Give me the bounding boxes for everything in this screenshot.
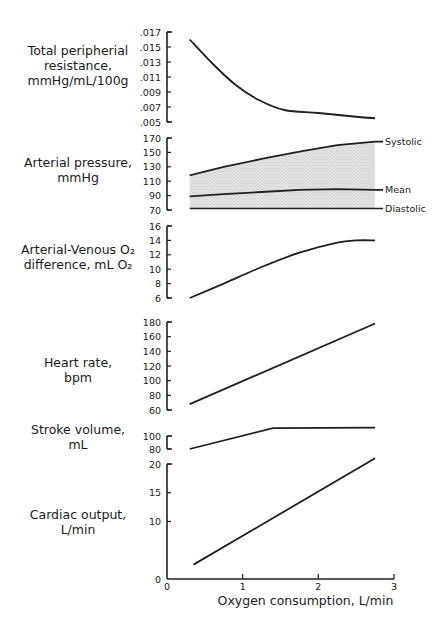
tick-label-co: 0 [155,574,161,585]
panels-layer: Total peripherialresistance,mmHg/mL/100g… [21,27,426,609]
tick-label-co: 15 [149,487,161,498]
tick-label-hr: 60 [149,405,161,416]
tick-label-hr: 80 [149,390,161,401]
tick-label-tpr: .013 [140,57,161,68]
tick-label-pressure: 150 [143,147,161,158]
x-tick-label: 1 [240,581,246,592]
tick-label-pressure: 90 [149,190,161,201]
tick-label-avo2: 14 [149,235,161,246]
x-tick-label: 2 [315,581,321,592]
series-line-avo2 [190,240,375,298]
tick-label-pressure: 130 [143,161,161,172]
tick-label-co: 10 [149,516,161,527]
panel-label-tpr: resistance, [44,58,112,73]
panel-label-pressure: Arterial pressure, [24,155,132,170]
series-label-systolic: Systolic [385,136,422,147]
panel-label-avo2: difference, mL O₂ [24,257,133,272]
physiology-figure: Total peripherialresistance,mmHg/mL/100g… [0,0,436,620]
tick-label-tpr: .017 [140,27,161,38]
pressure-shaded-area [190,142,375,209]
panel-tpr: Total peripherialresistance,mmHg/mL/100g… [27,27,375,128]
series-label-diastolic: Diastolic [385,203,426,214]
tick-label-hr: 160 [143,331,161,342]
tick-label-sv: 80 [149,444,161,455]
tick-label-tpr: .011 [140,72,161,83]
tick-label-pressure: 110 [143,176,161,187]
x-tick-label: 3 [391,581,397,592]
tick-label-tpr: .015 [140,42,161,53]
x-axis-label: Oxygen consumption, L/min [218,593,394,608]
tick-label-hr: 120 [143,361,161,372]
series-line-sv [190,428,375,449]
tick-label-co: 20 [149,459,161,470]
panel-label-hr: Heart rate, [44,355,112,370]
tick-label-hr: 140 [143,346,161,357]
tick-label-tpr: .005 [140,117,161,128]
panel-label-tpr: mmHg/mL/100g [27,73,128,88]
panel-label-hr: bpm [64,370,92,385]
tick-label-tpr: .009 [140,87,161,98]
tick-label-avo2: 12 [149,249,161,260]
tick-label-avo2: 8 [155,278,161,289]
panel-label-avo2: Arterial-Venous O₂ [21,242,135,257]
tick-label-avo2: 16 [149,221,161,232]
panel-label-pressure: mmHg [57,170,99,185]
panel-pressure: Arterial pressure,mmHg1701501301109070Sy… [24,133,426,216]
tick-label-pressure: 70 [149,205,161,216]
tick-label-hr: 100 [143,375,161,386]
tick-label-avo2: 10 [149,264,161,275]
tick-label-avo2: 6 [155,293,161,304]
panel-sv: Stroke volume,mL10080 [31,422,375,455]
panel-label-sv: Stroke volume, [31,422,125,437]
panel-label-co: L/min [61,522,96,537]
series-label-mean: Mean [385,184,411,195]
tick-label-tpr: .007 [140,102,161,113]
panel-label-tpr: Total peripherial [27,43,129,58]
panel-avo2: Arterial-Venous O₂difference, mL O₂16141… [21,221,375,304]
panel-hr: Heart rate,bpm1801601401201008060 [44,317,375,416]
panel-label-co: Cardiac output, [30,507,126,522]
x-tick-label: 0 [164,581,170,592]
tick-label-pressure: 170 [143,133,161,144]
panel-co: Cardiac output,L/min20151000123Oxygen co… [30,458,397,608]
panel-label-sv: mL [68,437,87,452]
tick-label-hr: 180 [143,317,161,328]
tick-label-sv: 100 [143,431,161,442]
series-line-hr [190,323,375,404]
series-line-tpr [190,40,375,119]
series-line-co [193,458,375,564]
